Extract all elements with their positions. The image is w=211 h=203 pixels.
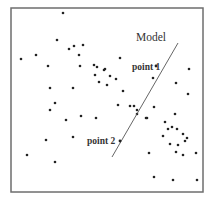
- data-point: [167, 128, 170, 131]
- data-point: [182, 154, 185, 157]
- data-point: [104, 68, 107, 71]
- data-point: [122, 90, 125, 93]
- data-point: [95, 117, 98, 120]
- data-point: [47, 65, 50, 68]
- data-point: [196, 179, 199, 182]
- data-point: [162, 135, 165, 138]
- data-point: [54, 102, 57, 105]
- data-point: [79, 65, 82, 68]
- data-point: [73, 45, 76, 48]
- data-point: [175, 151, 178, 154]
- data-point: [129, 105, 132, 108]
- model-label: Model: [136, 31, 166, 43]
- scatter-points: [20, 12, 199, 182]
- data-point: [117, 104, 120, 107]
- data-point: [172, 179, 175, 182]
- data-point: [109, 75, 112, 78]
- data-point: [72, 87, 75, 90]
- data-point: [96, 66, 99, 69]
- data-point: [26, 154, 29, 157]
- data-point: [146, 117, 149, 120]
- data-point: [176, 128, 179, 131]
- data-point: [153, 176, 156, 179]
- labeled-point-2: [119, 140, 122, 143]
- data-point: [49, 109, 52, 112]
- data-point: [187, 93, 190, 96]
- data-point: [188, 68, 191, 71]
- data-point: [174, 113, 177, 116]
- point-1-label: point 1: [132, 62, 160, 72]
- data-point: [45, 139, 48, 142]
- data-point: [175, 82, 178, 85]
- data-point: [186, 137, 189, 140]
- data-point: [56, 39, 59, 42]
- point-2-label: point 2: [87, 136, 115, 146]
- plot-frame: [11, 8, 203, 192]
- data-point: [152, 77, 155, 80]
- data-point: [78, 54, 81, 57]
- model-line: [112, 43, 178, 157]
- data-point: [82, 44, 85, 47]
- data-point: [195, 152, 198, 155]
- data-point: [93, 64, 96, 67]
- data-point: [49, 87, 52, 90]
- data-point: [182, 133, 185, 136]
- data-point: [72, 136, 75, 139]
- data-point: [184, 140, 187, 143]
- data-point: [148, 152, 151, 155]
- data-point: [171, 126, 174, 129]
- data-point: [169, 143, 172, 146]
- data-point: [54, 161, 57, 164]
- data-point: [136, 109, 139, 112]
- data-point: [153, 106, 156, 109]
- data-point: [119, 57, 122, 60]
- data-point: [62, 12, 65, 15]
- data-point: [68, 48, 71, 51]
- labeled-points: point 1point 2: [87, 62, 160, 146]
- data-point: [35, 54, 38, 57]
- data-point: [177, 144, 180, 147]
- model-fit-diagram: Model point 1point 2: [0, 0, 211, 203]
- data-point: [164, 121, 167, 124]
- data-point: [20, 58, 23, 61]
- data-point: [94, 74, 97, 77]
- data-point: [133, 105, 136, 108]
- data-point: [80, 115, 83, 118]
- data-point: [106, 84, 109, 87]
- data-point: [115, 78, 118, 81]
- data-point: [98, 81, 101, 84]
- data-point: [65, 119, 68, 122]
